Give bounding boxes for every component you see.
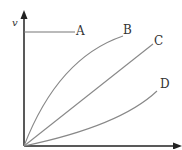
y-axis-arrow-icon [21, 10, 28, 19]
velocity-graph: v A B C D [0, 0, 182, 149]
curve-a-label: A [75, 24, 85, 38]
curve-c-label: C [154, 34, 163, 48]
curve-d-label: D [160, 77, 170, 91]
curve-d [24, 91, 157, 146]
curve-b-label: B [123, 23, 132, 37]
y-axis [21, 10, 28, 146]
curve-b [24, 36, 123, 146]
x-axis-arrow-icon [173, 143, 182, 150]
y-axis-label: v [12, 17, 18, 28]
x-axis [24, 143, 182, 150]
curve-c [24, 44, 153, 146]
